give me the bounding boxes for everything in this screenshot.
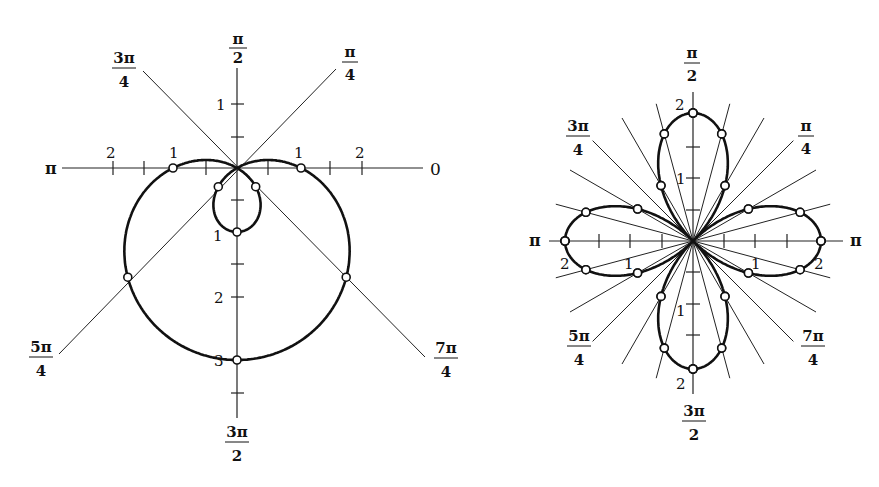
marked-point xyxy=(721,292,729,300)
marked-point xyxy=(660,130,668,138)
right-label-pi-over-2: π 2 xyxy=(684,44,700,85)
right-label-3pi-over-2: 3π 2 xyxy=(682,402,706,444)
svg-text:3π: 3π xyxy=(113,49,134,67)
marked-point xyxy=(342,273,350,281)
svg-text:5π: 5π xyxy=(568,327,589,345)
marked-point xyxy=(657,292,665,300)
marked-point xyxy=(561,237,569,245)
left-v-tick-label-1-up: 1 xyxy=(216,96,226,114)
left-v-tick-label-1-down: 1 xyxy=(213,227,223,245)
svg-text:2: 2 xyxy=(232,447,242,465)
svg-text:7π: 7π xyxy=(802,327,823,345)
left-label-5pi-over-4: 5π 4 xyxy=(29,338,53,380)
left-label-zero: 0 xyxy=(430,159,441,179)
svg-text:4: 4 xyxy=(808,351,818,369)
marked-point xyxy=(634,269,642,277)
marked-point xyxy=(796,266,804,274)
marked-point xyxy=(214,183,222,191)
marked-point xyxy=(718,130,726,138)
svg-text:π: π xyxy=(687,44,698,62)
right-v-tick-label-1-down: 1 xyxy=(676,302,686,320)
svg-text:5π: 5π xyxy=(30,338,51,356)
svg-text:7π: 7π xyxy=(435,339,456,357)
svg-text:4: 4 xyxy=(574,351,584,369)
svg-text:2: 2 xyxy=(687,67,697,85)
svg-text:2: 2 xyxy=(233,49,243,67)
marked-point xyxy=(582,208,590,216)
marked-point xyxy=(718,344,726,352)
right-label-pi-right: π xyxy=(850,231,862,250)
left-h-tick-label-2-right: 2 xyxy=(355,144,365,162)
right-label-7pi-over-4: 7π 4 xyxy=(801,327,825,369)
polar-graphs-diagram: 2 1 1 2 1 1 2 3 0 π π 2 π 4 3π 4 5π 4 xyxy=(0,0,879,487)
right-v-tick-label-1-up: 1 xyxy=(676,170,686,188)
svg-text:4: 4 xyxy=(801,140,811,158)
marked-point xyxy=(689,109,697,117)
rose-figure: 2 1 1 2 2 1 1 2 π π π 2 π 4 3π 4 5π 4 xyxy=(529,44,862,444)
limacon-figure: 2 1 1 2 1 1 2 3 0 π π 2 π 4 3π 4 5π 4 xyxy=(29,30,458,465)
right-h-tick-label-2-right: 2 xyxy=(814,255,824,273)
right-v-tick-label-2-up: 2 xyxy=(675,96,685,114)
svg-text:4: 4 xyxy=(345,66,355,84)
marked-point xyxy=(796,208,804,216)
left-v-tick-label-3-down: 3 xyxy=(214,352,224,370)
left-h-tick-label-2-left: 2 xyxy=(106,144,116,162)
left-label-7pi-over-4: 7π 4 xyxy=(434,339,458,381)
marked-point xyxy=(233,356,241,364)
marked-point xyxy=(233,228,241,236)
svg-text:2: 2 xyxy=(689,426,699,444)
left-h-tick-label-1-left: 1 xyxy=(169,144,179,162)
svg-text:3π: 3π xyxy=(567,117,588,135)
svg-text:3π: 3π xyxy=(226,423,247,441)
left-h-tick-label-1-right: 1 xyxy=(294,144,304,162)
svg-text:4: 4 xyxy=(119,73,129,91)
left-label-pi-over-2: π 2 xyxy=(229,30,247,67)
marked-point xyxy=(689,365,697,373)
right-label-3pi-over-4: 3π 4 xyxy=(566,117,590,159)
svg-text:π: π xyxy=(233,30,244,48)
svg-text:4: 4 xyxy=(36,362,46,380)
marked-point xyxy=(634,205,642,213)
svg-text:3π: 3π xyxy=(683,402,704,420)
marked-point xyxy=(721,182,729,190)
svg-text:4: 4 xyxy=(441,363,451,381)
left-v-tick-label-2-down: 2 xyxy=(214,289,224,307)
left-label-3pi-over-2: 3π 2 xyxy=(225,423,249,465)
right-h-tick-label-1-left: 1 xyxy=(624,255,634,273)
left-label-3pi-over-4: 3π 4 xyxy=(112,49,136,91)
right-h-tick-label-2-left: 2 xyxy=(560,255,570,273)
right-v-tick-label-2-down: 2 xyxy=(676,375,686,393)
marked-point xyxy=(252,183,260,191)
marked-point xyxy=(124,273,132,281)
marked-point xyxy=(297,164,305,172)
svg-text:π: π xyxy=(801,117,812,135)
marked-point xyxy=(660,344,668,352)
marked-point xyxy=(744,205,752,213)
marked-point xyxy=(657,182,665,190)
right-label-pi-over-4: π 4 xyxy=(798,117,814,158)
left-label-pi: π xyxy=(45,159,57,178)
right-label-pi-left: π xyxy=(529,231,541,250)
marked-point xyxy=(817,237,825,245)
svg-text:π: π xyxy=(345,43,356,61)
left-label-pi-over-4: π 4 xyxy=(342,43,358,84)
left-ray-pi-over-4-to-5pi-over-4 xyxy=(59,69,336,354)
right-label-5pi-over-4: 5π 4 xyxy=(567,327,591,369)
left-ray-3pi-over-4-to-7pi-over-4 xyxy=(143,71,425,357)
right-h-tick-label-1-right: 1 xyxy=(751,255,761,273)
marked-point xyxy=(169,164,177,172)
marked-point xyxy=(582,266,590,274)
svg-text:4: 4 xyxy=(573,141,583,159)
